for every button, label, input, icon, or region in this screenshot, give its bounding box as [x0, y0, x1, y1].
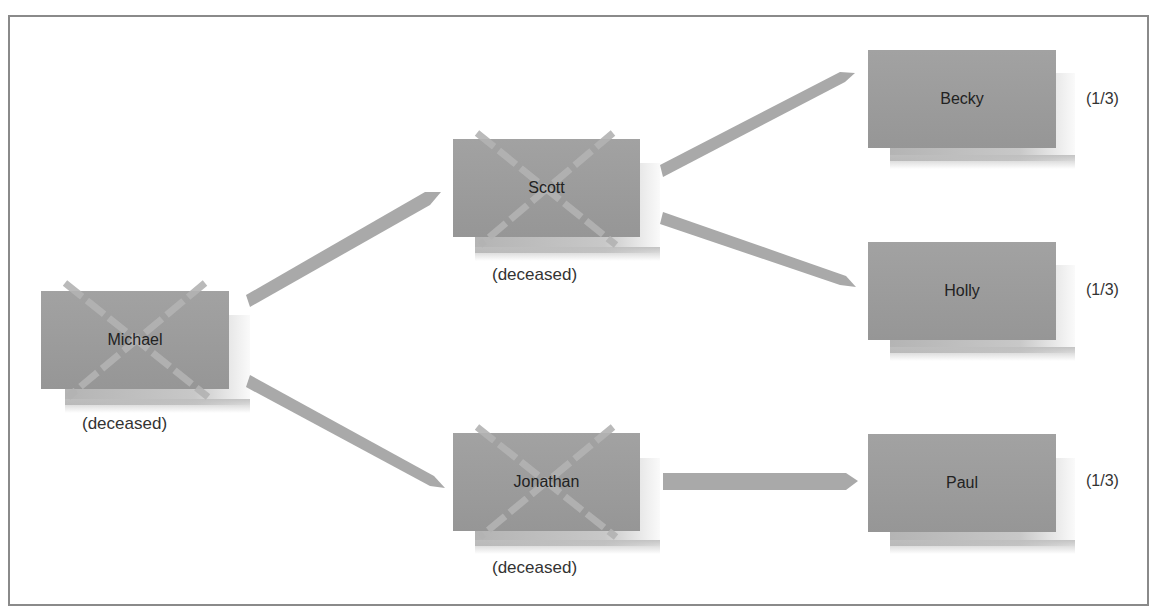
node-name: Paul: [946, 474, 978, 492]
status-label-jonathan: (deceased): [492, 558, 577, 578]
node-name: Scott: [528, 179, 564, 197]
status-label-scott: (deceased): [492, 265, 577, 285]
node-name: Jonathan: [514, 473, 580, 491]
share-label-paul: (1/3): [1086, 472, 1119, 490]
share-label-holly: (1/3): [1086, 281, 1119, 299]
node-name: Becky: [940, 90, 984, 108]
status-label-michael: (deceased): [82, 414, 167, 434]
node-name: Holly: [944, 282, 980, 300]
node-name: Michael: [107, 331, 162, 349]
share-label-becky: (1/3): [1086, 90, 1119, 108]
